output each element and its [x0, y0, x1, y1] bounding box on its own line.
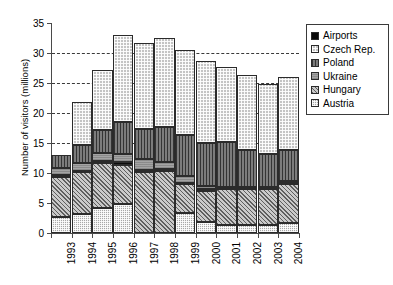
x-tick-label-1994: 1994	[87, 242, 98, 264]
bar-segment-czech-rep-1994	[72, 102, 92, 145]
bar-segment-ukraine-1994	[72, 163, 92, 170]
bar-1996	[113, 23, 133, 233]
bar-2004	[278, 23, 298, 233]
bar-2001	[216, 23, 236, 233]
y-tick-label: 20	[33, 108, 44, 119]
y-tick-label: 25	[33, 78, 44, 89]
bar-segment-ukraine-2000	[196, 186, 216, 190]
bar-segment-austria-1995	[92, 208, 112, 233]
legend-item-ukraine: Ukraine	[311, 70, 385, 84]
legend-item-poland: Poland	[311, 56, 385, 70]
bar-segment-ukraine-2004	[278, 181, 298, 183]
legend-swatch-icon	[311, 45, 319, 53]
bar-segment-austria-2001	[216, 225, 236, 233]
legend-item-austria: Austria	[311, 97, 385, 111]
bar-segment-hungary-2002	[237, 189, 257, 224]
bar-segment-austria-2003	[258, 225, 278, 233]
x-tick-label-2000: 2000	[211, 242, 222, 264]
y-axis-title: Number of visitors (millions)	[19, 28, 30, 208]
bar-segment-ukraine-1996	[113, 154, 133, 162]
legend-label: Hungary	[323, 84, 361, 95]
bar-1999	[175, 23, 195, 233]
bar-segment-hungary-1996	[113, 165, 133, 204]
x-tick-mark	[216, 233, 217, 238]
bar-segment-airports-2004	[278, 182, 298, 184]
bar-segment-ukraine-1999	[175, 176, 195, 183]
bar-segment-hungary-1998	[154, 171, 174, 233]
bar-segment-poland-2001	[216, 142, 236, 187]
bar-segment-czech-rep-2004	[278, 77, 298, 150]
bar-2003	[258, 23, 278, 233]
x-tick-mark	[154, 233, 155, 238]
bar-segment-czech-rep-2001	[216, 67, 236, 141]
bar-1997	[134, 23, 154, 233]
bar-segment-poland-2003	[258, 154, 278, 188]
bar-2000	[196, 23, 216, 233]
bar-segment-poland-2000	[196, 143, 216, 186]
bar-segment-ukraine-1993	[51, 168, 71, 175]
legend-item-czech-rep: Czech Rep.	[311, 43, 385, 57]
x-tick-mark	[134, 233, 135, 238]
bar-segment-austria-2000	[196, 222, 216, 233]
bar-1993	[51, 23, 71, 233]
bar-1994	[72, 23, 92, 233]
bar-segment-airports-1997	[134, 170, 154, 172]
x-tick-mark	[51, 233, 52, 238]
plot-area: 05101520253035 1993199419951996199719981…	[51, 23, 299, 233]
bar-segment-poland-1998	[154, 127, 174, 162]
bar-segment-airports-2003	[258, 187, 278, 189]
legend-swatch-icon	[311, 59, 319, 67]
bar-segment-hungary-1993	[51, 177, 71, 217]
bar-segment-hungary-2000	[196, 191, 216, 222]
y-tick-label: 10	[33, 168, 44, 179]
legend-label: Poland	[323, 57, 354, 68]
x-tick-mark	[175, 233, 176, 238]
bar-segment-austria-1996	[113, 204, 133, 233]
bar-segment-airports-1994	[72, 170, 92, 172]
legend-label: Czech Rep.	[323, 44, 375, 55]
x-tick-mark	[237, 233, 238, 238]
bar-segment-ukraine-1997	[134, 159, 154, 170]
bar-2002	[237, 23, 257, 233]
legend-swatch-icon	[311, 99, 319, 107]
bar-segment-hungary-1994	[72, 172, 92, 214]
bar-segment-austria-2004	[278, 223, 298, 233]
y-tick-label: 30	[33, 48, 44, 59]
bar-segment-ukraine-1998	[154, 162, 174, 169]
x-tick-mark	[278, 233, 279, 238]
x-tick-label-1993: 1993	[66, 242, 77, 264]
x-tick-mark	[196, 233, 197, 238]
x-tick-label-2001: 2001	[231, 242, 242, 264]
bar-1998	[154, 23, 174, 233]
x-tick-label-1996: 1996	[128, 242, 139, 264]
bar-segment-airports-1995	[92, 161, 112, 163]
x-tick-label-1995: 1995	[107, 242, 118, 264]
legend-item-airports: Airports	[311, 29, 385, 43]
bar-segment-czech-rep-2002	[237, 75, 257, 149]
x-tick-mark	[299, 233, 300, 238]
bar-segment-airports-2000	[196, 189, 216, 191]
x-tick-mark	[72, 233, 73, 238]
bar-segment-airports-2002	[237, 187, 257, 189]
bar-segment-hungary-2004	[278, 184, 298, 222]
bar-segment-airports-1999	[175, 182, 195, 184]
stacked-bar-chart-figure: Number of visitors (millions) 0510152025…	[0, 0, 393, 285]
x-tick-mark	[258, 233, 259, 238]
bar-segment-airports-2001	[216, 187, 236, 189]
bar-segment-czech-rep-1999	[175, 50, 195, 135]
bar-segment-hungary-2003	[258, 189, 278, 225]
y-tick-label: 15	[33, 138, 44, 149]
bar-segment-czech-rep-2000	[196, 61, 216, 143]
bar-1995	[92, 23, 112, 233]
legend-item-hungary: Hungary	[311, 83, 385, 97]
legend-label: Airports	[323, 30, 357, 41]
legend-swatch-icon	[311, 32, 319, 40]
bar-segment-ukraine-1995	[92, 153, 112, 161]
x-tick-label-2004: 2004	[293, 242, 304, 264]
x-tick-label-1997: 1997	[149, 242, 160, 264]
y-tick-label: 0	[38, 228, 44, 239]
bar-segment-czech-rep-1996	[113, 35, 133, 122]
bar-segment-poland-1999	[175, 135, 195, 176]
legend-swatch-icon	[311, 86, 319, 94]
legend-label: Ukraine	[323, 71, 357, 82]
